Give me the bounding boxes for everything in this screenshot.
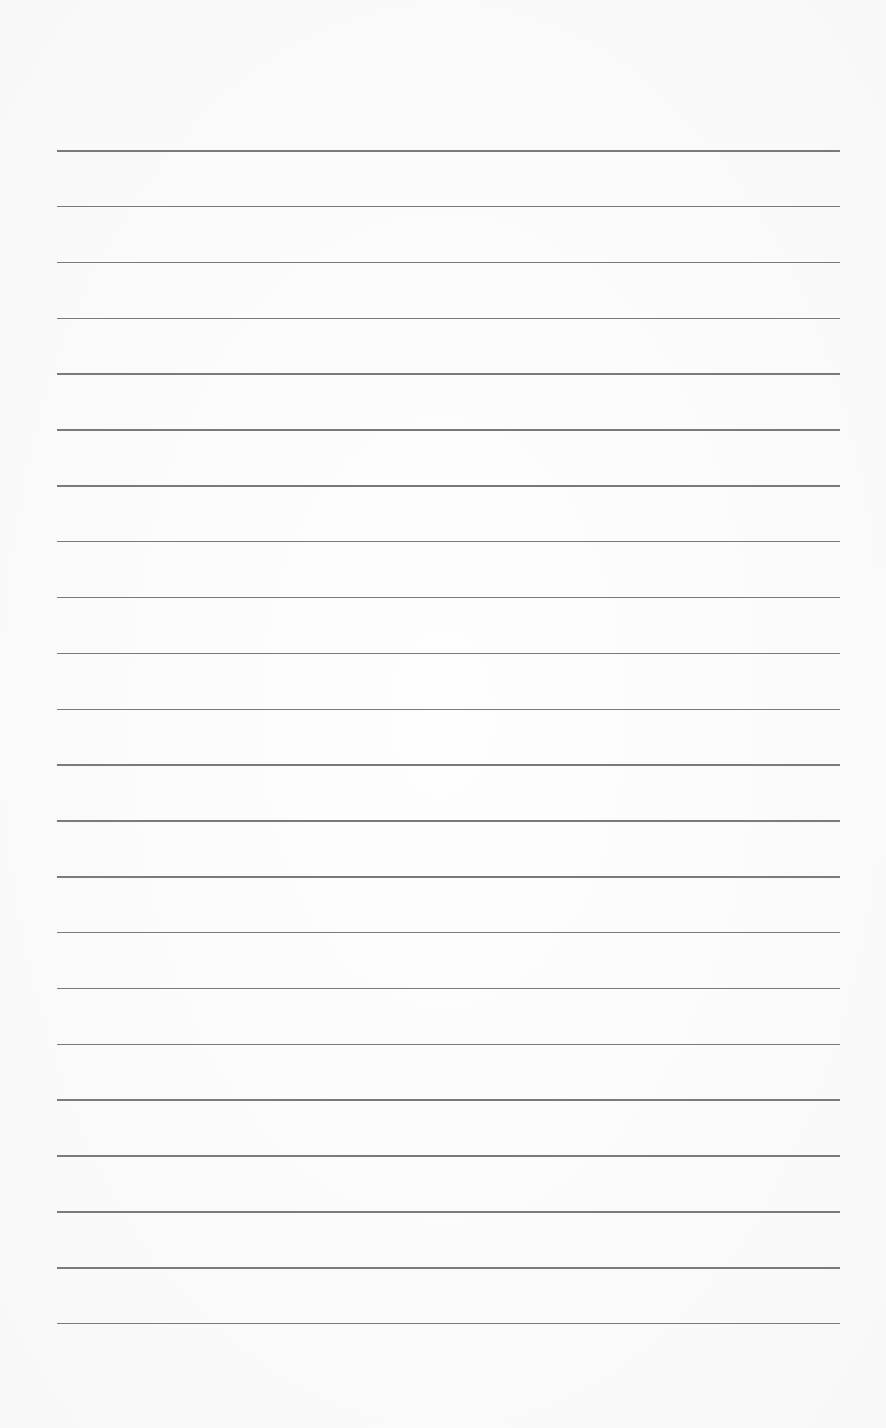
ruled-line [57,1044,840,1046]
ruled-line [57,1155,840,1157]
ruled-line [57,485,840,487]
ruled-line [57,262,840,264]
ruled-line [57,876,840,878]
ruled-line [57,653,840,655]
ruled-line [57,1211,840,1213]
ruled-line [57,597,840,599]
ruled-line [57,373,840,375]
ruled-line [57,541,840,543]
ruled-line [57,709,840,711]
ruled-line [57,206,840,208]
ruled-line [57,1099,840,1101]
ruled-line [57,429,840,431]
ruled-line [57,318,840,320]
ruled-line [57,1267,840,1269]
ruled-line [57,764,840,766]
ruled-line [57,1323,840,1325]
lined-paper-sheet [0,0,886,1428]
ruled-line [57,932,840,934]
ruled-line [57,150,840,152]
ruled-line [57,820,840,822]
ruled-line [57,988,840,990]
